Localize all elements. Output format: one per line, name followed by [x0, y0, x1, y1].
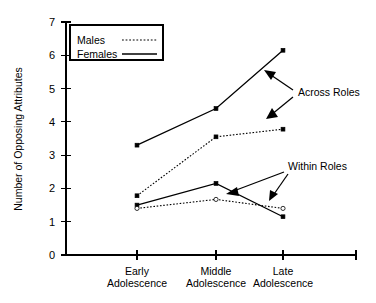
legend-label: Males — [77, 34, 105, 46]
series-line — [137, 50, 283, 145]
x-axis-tick-labels: EarlyAdolescenceMiddleAdolescenceLateAdo… — [107, 265, 313, 289]
y-axis-title: Number of Opposing Attributes — [12, 67, 24, 211]
y-tick-label: 7 — [49, 16, 55, 28]
data-point-marker — [135, 194, 139, 198]
data-point-marker — [135, 206, 139, 210]
annotation-across-roles: Across Roles — [264, 70, 360, 119]
data-point-marker — [135, 143, 139, 147]
data-point-marker — [214, 182, 218, 186]
data-point-marker — [281, 127, 285, 131]
annotation-across-arrow-upper-head — [264, 70, 276, 80]
series-layer — [135, 48, 285, 218]
y-axis-tick-labels: 01234567 — [49, 16, 55, 261]
data-point-marker — [281, 48, 285, 52]
x-axis-category-label: Late — [273, 265, 294, 277]
y-tick-label: 4 — [49, 116, 55, 128]
y-tick-label: 3 — [49, 149, 55, 161]
annotation-within-roles-label: Within Roles — [288, 160, 347, 172]
annotation-within-arrow-right-head — [269, 190, 278, 201]
annotation-within-arrow-left-head — [226, 187, 239, 196]
data-point-marker — [214, 197, 218, 201]
legend: MalesFemales — [70, 25, 163, 60]
y-axis-group: 01234567 — [49, 16, 71, 261]
x-axis-group: EarlyAdolescenceMiddleAdolescenceLateAdo… — [66, 250, 356, 289]
legend-label: Females — [77, 48, 117, 60]
x-axis-category-label: Adolescence — [253, 277, 313, 289]
chart-container: 01234567 EarlyAdolescenceMiddleAdolescen… — [0, 0, 376, 303]
y-tick-label: 5 — [49, 83, 55, 95]
y-tick-label: 1 — [49, 216, 55, 228]
x-axis-category-label: Adolescence — [107, 277, 167, 289]
data-point-marker — [281, 215, 285, 219]
y-tick-label: 0 — [49, 249, 55, 261]
y-tick-label: 2 — [49, 182, 55, 194]
y-tick-label: 6 — [49, 49, 55, 61]
annotation-across-roles-label: Across Roles — [298, 86, 360, 98]
series-line — [137, 129, 283, 196]
line-chart: 01234567 EarlyAdolescenceMiddleAdolescen… — [0, 0, 376, 303]
annotation-within-arrow-left-line — [231, 172, 284, 192]
data-point-marker — [214, 135, 218, 139]
annotation-within-roles: Within Roles — [226, 160, 347, 201]
x-axis-category-label: Early — [125, 265, 150, 277]
x-axis-category-label: Middle — [201, 265, 232, 277]
annotation-across-arrow-lower-head — [266, 108, 278, 119]
series-line — [137, 199, 283, 208]
data-point-marker — [281, 206, 285, 210]
data-point-marker — [214, 107, 218, 111]
x-axis-category-label: Adolescence — [186, 277, 246, 289]
